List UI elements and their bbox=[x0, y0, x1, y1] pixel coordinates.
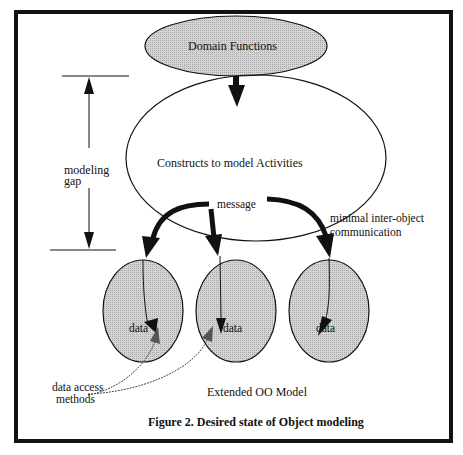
data-access-label-line2: methods bbox=[56, 394, 95, 406]
message-label: message bbox=[217, 199, 256, 211]
data-access-label-line1: data access bbox=[52, 382, 103, 394]
object-node-2 bbox=[196, 260, 276, 362]
communication-label-line2: communication bbox=[330, 227, 402, 239]
gap-up-arrowhead bbox=[84, 77, 94, 94]
object-3-data-label: data bbox=[316, 323, 335, 335]
model-label: Extended OO Model bbox=[207, 386, 307, 398]
communication-label-line1: minimal inter-object bbox=[330, 213, 424, 225]
activities-label: Constructs to model Activities bbox=[157, 157, 303, 169]
domain-functions-label: Domain Functions bbox=[188, 40, 277, 52]
gap-label-line2: gap bbox=[64, 175, 81, 187]
message-arrow-right bbox=[267, 199, 326, 236]
figure-caption: Figure 2. Desired state of Object modeli… bbox=[148, 416, 364, 428]
message-arrow-mid-head bbox=[205, 234, 222, 256]
message-arrow-left-head bbox=[142, 236, 160, 258]
message-arrow-mid bbox=[211, 209, 214, 238]
gap-down-arrowhead bbox=[84, 232, 94, 249]
object-1-data-label: data bbox=[129, 323, 148, 335]
domain-to-activities-arrowhead bbox=[228, 85, 245, 107]
object-2-data-label: data bbox=[223, 323, 242, 335]
